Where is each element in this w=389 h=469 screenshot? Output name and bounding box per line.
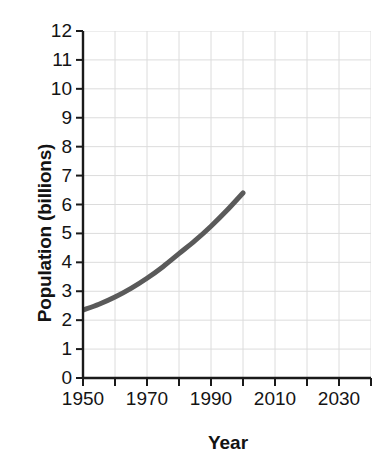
plot-canvas <box>83 31 371 378</box>
y-tick-label: 2 <box>28 310 72 329</box>
data-series-group <box>83 193 243 310</box>
plot-area <box>83 31 371 378</box>
y-tick-label: 3 <box>28 281 72 300</box>
data-line <box>83 193 243 310</box>
y-tick-label: 0 <box>28 368 72 387</box>
y-tick-label: 4 <box>28 252 72 271</box>
grid-lines <box>83 31 371 378</box>
y-tick-label: 12 <box>28 21 72 40</box>
y-tick-label: 7 <box>28 166 72 185</box>
x-axis-tick-labels: 19501970199020102030 <box>0 388 389 416</box>
y-tick-label: 6 <box>28 195 72 214</box>
x-axis-title: Year <box>83 432 373 454</box>
x-tick-label: 2030 <box>299 388 379 410</box>
y-tick-label: 9 <box>28 108 72 127</box>
y-tick-label: 8 <box>28 137 72 156</box>
population-chart: Population (billions) 0123456789101112 1… <box>0 0 389 469</box>
y-tick-label: 5 <box>28 223 72 242</box>
y-tick-label: 11 <box>28 50 72 69</box>
y-tick-label: 10 <box>28 79 72 98</box>
y-tick-label: 1 <box>28 339 72 358</box>
